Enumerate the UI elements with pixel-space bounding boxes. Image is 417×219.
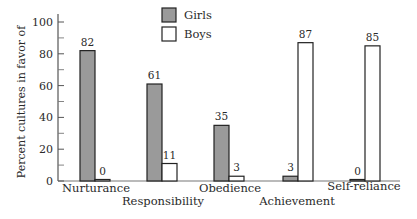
data-label: 11 (163, 149, 176, 161)
data-labels: 8206111353387085 (81, 28, 379, 177)
data-label: 82 (81, 36, 94, 48)
bar-boys-self-reliance (365, 46, 380, 181)
bar-girls-obedience (214, 125, 229, 181)
data-label: 0 (354, 165, 361, 177)
x-tick-label: Self-reliance (327, 179, 400, 193)
y-tick-label: 80 (39, 48, 53, 61)
data-label: 85 (366, 31, 379, 43)
bar-girls-responsibility (147, 84, 162, 181)
legend-swatch-boys (162, 27, 176, 41)
y-tick-label: 60 (39, 80, 53, 93)
data-label: 3 (233, 161, 240, 173)
data-label: 35 (215, 110, 228, 122)
x-tick-label: Responsibility (122, 194, 205, 208)
x-tick-label: Nurturance (62, 181, 130, 195)
data-label: 87 (299, 28, 312, 40)
y-axis-label: Percent cultures in favor of (15, 25, 28, 178)
data-label: 3 (287, 161, 294, 173)
x-tick-label: Achievement (258, 194, 335, 208)
x-tick-label: Obedience (199, 181, 261, 195)
category-labels: NurturanceResponsibilityObedienceAchieve… (62, 179, 401, 208)
bar-girls-nurturance (80, 51, 95, 181)
y-tick-label: 40 (39, 111, 53, 124)
legend: GirlsBoys (162, 8, 212, 41)
legend-label-boys: Boys (184, 27, 212, 41)
legend-label-girls: Girls (184, 8, 212, 22)
data-label: 61 (148, 69, 161, 81)
y-tick-label: 100 (32, 16, 53, 29)
legend-swatch-girls (162, 8, 176, 22)
bar-chart: 020406080100 8206111353387085 Nurturance… (0, 0, 417, 219)
bar-boys-achievement (298, 43, 313, 181)
y-tick-label: 0 (46, 175, 53, 188)
bar-boys-responsibility (162, 164, 177, 181)
data-label: 0 (99, 165, 106, 177)
bars (80, 43, 380, 181)
bar-girls-achievement (283, 176, 298, 181)
y-tick-label: 20 (39, 143, 53, 156)
